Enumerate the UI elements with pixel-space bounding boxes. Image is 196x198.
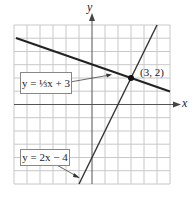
coordinate-plane [0, 0, 196, 198]
intersection-point [128, 75, 134, 81]
x-axis-label: x [182, 96, 187, 111]
intersection-label: (3, 2) [140, 66, 164, 78]
x-axis-arrow-icon [173, 102, 181, 108]
leader-arrow-1-icon [106, 74, 112, 78]
equation-label-1: y = ⅓x + 3 [20, 72, 72, 94]
equation-label-2: y = 2x − 4 [20, 149, 70, 166]
y-axis-label: y [87, 0, 92, 15]
